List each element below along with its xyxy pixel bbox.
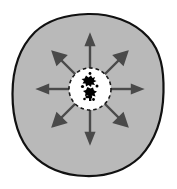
figure-canvas — [0, 0, 177, 189]
radial-dispersal-diagram — [0, 0, 177, 189]
